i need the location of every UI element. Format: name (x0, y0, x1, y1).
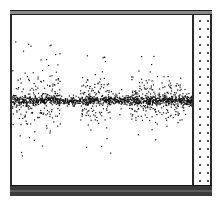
scrollbar-track-stripe (10, 190, 212, 192)
scatter-points (12, 41, 193, 156)
dotted-side-panel (192, 15, 210, 186)
horizontal-scrollbar[interactable] (10, 185, 212, 196)
scatter-plot (12, 15, 193, 186)
